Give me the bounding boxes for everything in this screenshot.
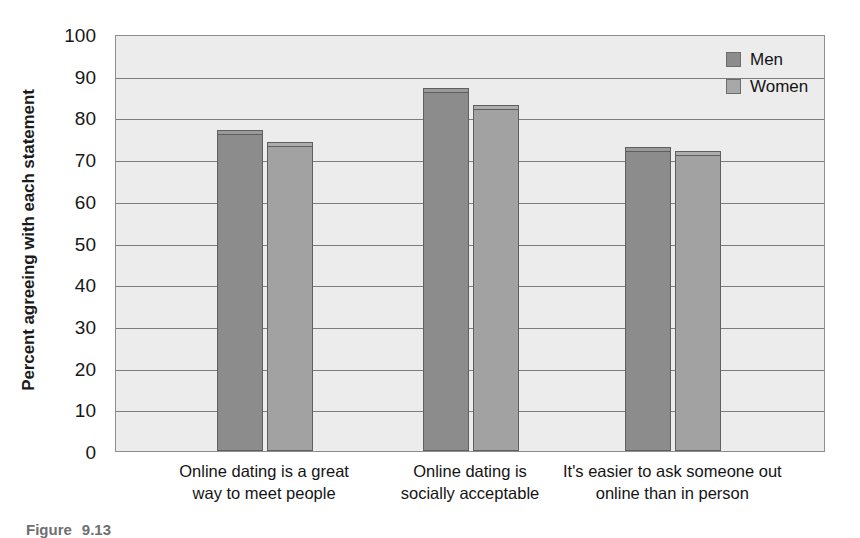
- y-axis-tick-100: 100: [64, 26, 96, 45]
- y-axis-tick-90: 90: [75, 67, 96, 86]
- y-axis-tick-50: 50: [75, 234, 96, 253]
- bars-layer: [116, 36, 824, 451]
- bar-face: [217, 134, 263, 451]
- bar-men: [217, 130, 263, 451]
- x-axis-label-line: online than in person: [542, 482, 802, 504]
- plot-area: [115, 35, 825, 452]
- caption-label: Figure: [26, 521, 72, 538]
- bar-women: [675, 151, 721, 451]
- bar-group: [625, 36, 721, 451]
- caption-number: 9.13: [82, 521, 111, 538]
- bar-men: [423, 88, 469, 451]
- y-axis-tick-60: 60: [75, 192, 96, 211]
- legend-swatch-icon: [726, 52, 741, 67]
- x-axis-label: It's easier to ask someone outonline tha…: [542, 460, 802, 504]
- bar-face: [473, 109, 519, 451]
- y-axis-tick-30: 30: [75, 317, 96, 336]
- y-axis-tick-70: 70: [75, 151, 96, 170]
- legend-item-men[interactable]: Men: [726, 46, 836, 73]
- bar-face: [423, 92, 469, 451]
- y-axis-tick-20: 20: [75, 359, 96, 378]
- bar-group: [217, 36, 313, 451]
- y-axis-tick-labels: 1009080706050403020100: [46, 35, 106, 452]
- y-axis-tick-10: 10: [75, 401, 96, 420]
- y-axis-tick-0: 0: [85, 443, 96, 462]
- bar-face: [267, 146, 313, 451]
- y-axis-title: Percent agreeing with each statement: [14, 20, 44, 460]
- x-axis-label-line: It's easier to ask someone out: [542, 460, 802, 482]
- x-axis-category-labels: Online dating is a greatway to meet peop…: [115, 460, 825, 510]
- bar-women: [473, 105, 519, 451]
- legend-item-women[interactable]: Women: [726, 73, 836, 100]
- bar-men: [625, 147, 671, 451]
- legend-label: Women: [750, 77, 808, 97]
- bar-women: [267, 142, 313, 451]
- chart-legend: MenWomen: [726, 46, 836, 100]
- bar-group: [423, 36, 519, 451]
- y-axis-tick-40: 40: [75, 276, 96, 295]
- figure-caption: Figure9.13: [26, 521, 111, 538]
- legend-swatch-icon: [726, 79, 741, 94]
- bar-face: [625, 151, 671, 451]
- legend-label: Men: [750, 50, 783, 70]
- y-axis-tick-80: 80: [75, 109, 96, 128]
- bar-face: [675, 155, 721, 451]
